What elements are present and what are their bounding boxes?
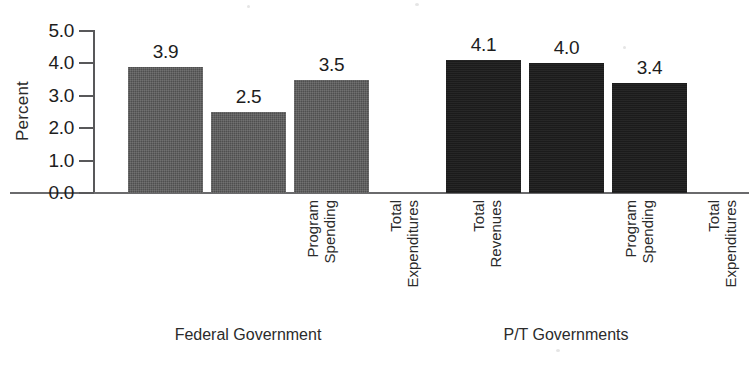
- category-label: ProgramSpending: [304, 200, 344, 320]
- bar: [529, 63, 604, 193]
- bar-value-label: 3.5: [294, 55, 369, 74]
- bar: [446, 60, 521, 193]
- category-label-line-1: Program: [304, 200, 321, 320]
- bar: [612, 83, 687, 193]
- bar: [128, 67, 203, 193]
- bar-value-label: 3.4: [612, 58, 687, 77]
- bar: [211, 112, 286, 193]
- bar: [294, 80, 369, 193]
- category-label-line-1: Total: [387, 200, 404, 320]
- category-label-line-1: Total: [705, 200, 722, 320]
- category-label: TotalExpenditures: [387, 200, 427, 320]
- category-label-line-2: Spending: [639, 200, 656, 320]
- bar-value-label: 3.9: [128, 42, 203, 61]
- scan-speckle: [247, 5, 250, 8]
- category-label: TotalRevenues: [470, 200, 510, 320]
- category-label-line-2: Expenditures: [404, 200, 421, 320]
- bar-value-label: 4.1: [446, 35, 521, 54]
- group-caption-federal: Federal Government: [128, 326, 368, 344]
- scan-speckle: [415, 3, 419, 6]
- category-label: TotalExpenditures: [705, 200, 745, 320]
- category-label-line-1: Total: [470, 200, 487, 320]
- category-label-line-2: Revenues: [487, 200, 504, 320]
- category-label-line-2: Expenditures: [722, 200, 739, 320]
- category-label-line-1: Program: [622, 200, 639, 320]
- bar-chart: Percent 0.01.02.03.04.05.0 3.92.53.54.14…: [0, 0, 749, 366]
- group-caption-pt: P/T Governments: [446, 326, 686, 344]
- category-label-line-2: Spending: [321, 200, 338, 320]
- scan-speckle: [623, 46, 626, 49]
- category-label: ProgramSpending: [622, 200, 662, 320]
- scan-speckle: [556, 349, 560, 352]
- plot-area: 3.92.53.54.14.03.4: [0, 0, 749, 193]
- bar-value-label: 4.0: [529, 38, 604, 57]
- bar-value-label: 2.5: [211, 87, 286, 106]
